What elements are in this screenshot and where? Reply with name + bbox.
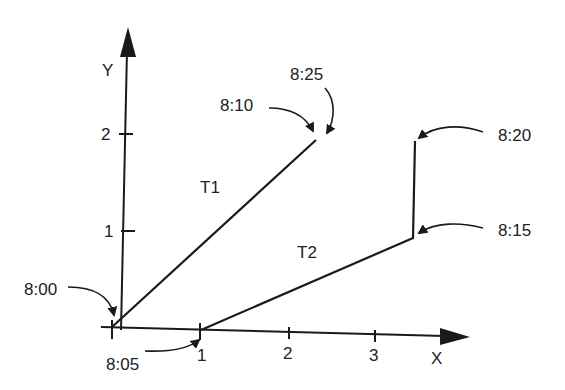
annotation-8-15: 8:15 [419, 221, 531, 240]
path-t2: T2 [201, 141, 415, 330]
time-label-8-20: 8:20 [498, 126, 531, 145]
annotation-8-10: 8:10 [220, 96, 313, 131]
y-tick-label-2: 2 [101, 125, 110, 144]
y-axis-arrow-icon [120, 27, 136, 57]
annotation-8-05: 8:05 [106, 340, 199, 374]
y-axis: Y 2 1 [101, 27, 136, 330]
trajectory-diagram: Y 2 1 1 2 3 X T1 T2 8:00 8:10 8:25 8 [0, 0, 565, 390]
path-t2-label: T2 [297, 243, 317, 262]
x-axis-arrow-icon [440, 328, 470, 345]
annotation-8-20: 8:20 [419, 126, 531, 145]
path-t1-label: T1 [200, 178, 220, 197]
x-axis-label: X [431, 349, 442, 368]
time-label-8-10: 8:10 [220, 96, 253, 115]
x-tick-label-2: 2 [283, 344, 292, 363]
time-label-8-15: 8:15 [498, 221, 531, 240]
time-label-8-00: 8:00 [24, 280, 57, 299]
y-axis-label: Y [102, 61, 113, 80]
time-label-8-25: 8:25 [290, 65, 323, 84]
time-label-8-05: 8:05 [106, 355, 139, 374]
x-tick-label-3: 3 [369, 346, 378, 365]
annotation-8-00: 8:00 [24, 280, 114, 315]
annotation-8-25: 8:25 [290, 65, 333, 133]
path-t1: T1 [112, 140, 316, 327]
x-axis: 1 2 3 X [101, 320, 470, 368]
x-tick-label-1: 1 [197, 346, 206, 365]
y-tick-label-1: 1 [104, 222, 113, 241]
